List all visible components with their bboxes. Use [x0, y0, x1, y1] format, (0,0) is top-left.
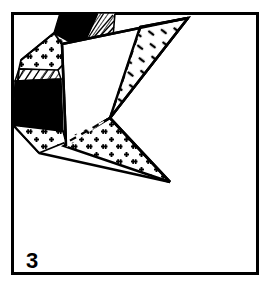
- figure-drawing: 3: [0, 0, 271, 290]
- facet-black-left: [13, 79, 63, 131]
- figure-number-label: 3: [26, 248, 38, 273]
- figure-panel: 3: [0, 0, 271, 290]
